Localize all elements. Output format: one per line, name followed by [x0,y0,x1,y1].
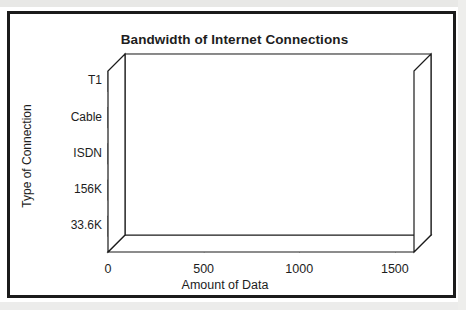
back-wall [125,54,431,235]
left-wall [108,54,125,252]
y-tick-label-cable: Cable [38,110,102,124]
x-tick-label-1000: 1000 [269,262,329,276]
y-tick-label-isdn: ISDN [38,146,102,160]
x-tick-label-1500: 1500 [365,262,425,276]
scan-edge-right [458,0,466,310]
y-axis-title: Type of Connection [20,86,34,226]
chart-frame: Bandwidth of Internet Connections Type o… [7,11,456,298]
scan-edge-top [0,0,466,7]
right-wall [414,54,431,252]
x-tick-label-0: 0 [78,262,138,276]
scan-edge-bottom [0,302,466,310]
x-tick-label-500: 500 [174,262,234,276]
axis-layer [108,54,431,252]
y-tick-label-33-6k: 33.6K [38,218,102,232]
floor-plane [108,235,431,252]
x-axis-title: Amount of Data [70,278,380,292]
plot-area: Type of Connection T1CableISDN156K33.6K … [10,14,459,301]
y-tick-label-156k: 156K [38,182,102,196]
y-tick-label-t1: T1 [38,73,102,87]
